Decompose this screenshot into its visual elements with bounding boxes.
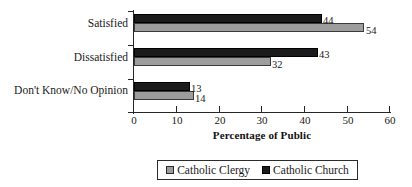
legend-swatch-icon-clergy	[166, 166, 174, 174]
category-label-dissatisfied: Dissatisfied	[4, 51, 132, 64]
legend-item-catholic-church[interactable]: Catholic Church	[262, 164, 349, 177]
category-label-dont-know-no-opinion: Don't Know/No Opinion	[4, 84, 132, 97]
x-axis-tick-label: 20	[205, 114, 235, 127]
bar-value-dissatisfied-catholic-clergy: 32	[272, 59, 283, 70]
category-label-satisfied: Satisfied	[4, 17, 132, 30]
category-axis-labels: Satisfied Dissatisfied Don't Know/No Opi…	[0, 0, 132, 120]
legend-swatch-icon-church	[262, 166, 270, 174]
x-axis-tick-label: 30	[247, 114, 277, 127]
x-axis-tick-label: 40	[290, 114, 320, 127]
legend-label-catholic-clergy: Catholic Clergy	[177, 164, 250, 177]
x-axis-tick-label: 50	[333, 114, 363, 127]
bar-chart: Satisfied Dissatisfied Don't Know/No Opi…	[0, 0, 412, 187]
bar-dont-know-catholic-clergy	[134, 91, 194, 100]
x-axis-tick-label: 60	[375, 114, 405, 127]
x-axis-title: Percentage of Public	[134, 129, 390, 141]
legend-label-catholic-church: Catholic Church	[273, 164, 349, 177]
bar-dissatisfied-catholic-church	[134, 48, 318, 57]
bar-satisfied-catholic-church	[134, 14, 322, 23]
x-axis-tick-label: 10	[162, 114, 192, 127]
bar-value-dissatisfied-catholic-church: 43	[319, 49, 330, 60]
bar-dont-know-catholic-church	[134, 82, 190, 91]
legend-item-catholic-clergy[interactable]: Catholic Clergy	[166, 164, 250, 177]
chart-legend: Catholic Clergy Catholic Church	[157, 160, 358, 180]
bar-value-dont-know-catholic-clergy: 14	[195, 93, 206, 104]
bar-value-satisfied-catholic-clergy: 54	[366, 25, 377, 36]
plot-area	[134, 11, 390, 113]
bar-dissatisfied-catholic-clergy	[134, 57, 271, 66]
bar-value-satisfied-catholic-church: 44	[323, 15, 334, 26]
x-axis-tick-label: 0	[119, 114, 149, 127]
